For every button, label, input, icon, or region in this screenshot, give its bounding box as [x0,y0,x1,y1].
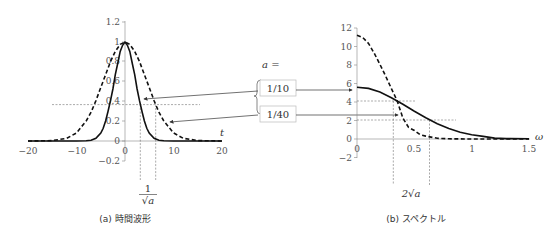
xtick-a-1: −10 [68,146,87,156]
caption-b: (b) スペクトル [386,214,446,224]
xtick-a-3: 10 [168,146,180,156]
xtick-a-4: 20 [216,146,228,156]
arrow-a-1-10 [144,91,258,99]
xtick-b-3: 1.5 [522,144,537,154]
figure: −0.2 0 0.2 0.4 0.6 0.8 1 1.2 −20 −10 0 1… [0,0,560,240]
legend-label-1-10: 1/10 [267,83,289,94]
xtick-b-0: 0 [354,144,360,154]
xlabel-a: t [220,127,225,138]
svg-text:√a: √a [142,195,154,206]
xlabel-b: ω [535,131,543,142]
arrow-a-1-40 [170,115,258,122]
legend-label-1-40: 1/40 [267,109,289,120]
panel-b: −2 0 2 4 6 8 10 12 0 0.5 1 1.5 ω 2√a (b)… [339,23,543,224]
y-ticks-b [354,28,357,158]
legend: a = 1/10 1/40 [144,59,398,122]
ytick-b-4: 6 [346,79,352,89]
svg-text:1: 1 [145,183,151,194]
ytick-b-1: 0 [346,134,352,144]
xtick-b-2: 1 [469,144,475,154]
xtick-a-2: 0 [122,146,128,156]
ytick-b-2: 2 [346,116,352,126]
legend-title: a = [262,59,280,70]
xtick-b-1: 0.5 [407,144,422,154]
ytick-b-7: 12 [341,23,352,33]
caption-a: (a) 時間波形 [99,213,150,224]
ytick-a-1: 0 [114,136,120,146]
ytick-a-2: 0.2 [106,116,120,126]
curve-b-1-10 [357,87,529,139]
xtick-a-0: −20 [19,146,38,156]
ytick-b-0: −2 [339,153,352,163]
ytick-a-7: 1.2 [106,17,120,27]
ytick-b-3: 4 [346,97,352,107]
ytick-b-6: 10 [341,42,353,52]
ytick-a-6: 1 [114,37,120,47]
ytick-a-0: −0.2 [98,156,120,166]
annotation-2-sqrt-a: 2√a [401,188,421,199]
panel-a: −0.2 0 0.2 0.4 0.6 0.8 1 1.2 −20 −10 0 1… [19,17,228,224]
ytick-b-5: 8 [346,60,352,70]
curve-b-1-40 [357,35,529,139]
annotation-inv-sqrt-a: 1 √a [139,183,157,206]
